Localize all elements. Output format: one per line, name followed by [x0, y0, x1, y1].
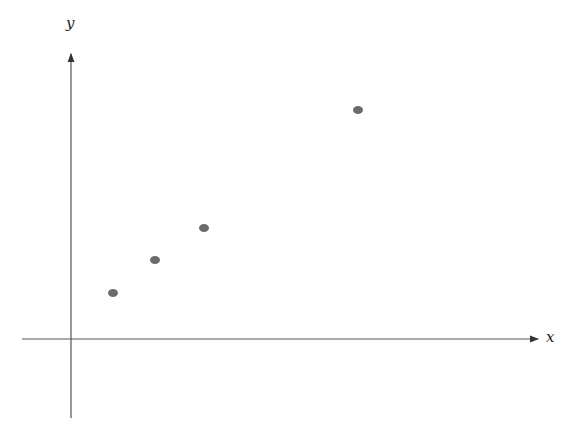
data-point — [353, 106, 363, 114]
data-point — [150, 256, 160, 264]
data-points — [108, 106, 363, 297]
scatter-plot — [0, 0, 582, 432]
x-axis-label: x — [546, 328, 554, 346]
data-point — [199, 224, 209, 232]
data-point — [108, 289, 118, 297]
y-axis-label: y — [66, 14, 74, 32]
